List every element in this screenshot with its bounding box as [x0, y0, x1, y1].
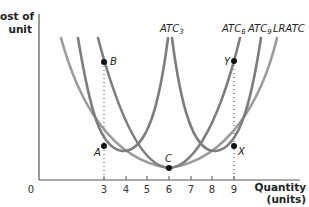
x-tick-label-9: 9: [231, 184, 237, 195]
y-axis-title-line2: unit: [8, 23, 32, 35]
x-tick-label-3: 3: [101, 184, 107, 195]
atc9-curve: [172, 38, 261, 151]
point-y-marker: [231, 58, 237, 64]
point-x-marker: [231, 143, 237, 149]
x-tick-label-4: 4: [123, 184, 129, 195]
x-axis-title-line2: (units): [267, 193, 306, 205]
point-a-label: A: [93, 147, 101, 158]
point-b-label: B: [110, 56, 117, 67]
point-c-marker: [166, 165, 172, 171]
point-c-label: C: [165, 153, 172, 164]
point-a-marker: [101, 143, 107, 149]
atc6-label: ATC6: [221, 23, 246, 36]
y-axis-title-line1: Cost of: [0, 10, 34, 22]
x-tick-label-8: 8: [209, 184, 215, 195]
x-axis-title-line1: Quantity: [255, 181, 307, 193]
atc9-label: ATC9: [247, 23, 272, 36]
atc3-label: ATC3: [159, 23, 184, 36]
atc6-curve: [98, 38, 240, 168]
cost-curves-chart: Cost of unit Quantity (units) 0 3 4 5 6 …: [0, 0, 309, 207]
point-b-marker: [101, 59, 107, 65]
point-x-label: X: [237, 146, 246, 157]
point-y-label: Y: [224, 56, 231, 67]
atc3-curve: [78, 38, 168, 151]
lratc-label: LRATC: [273, 23, 305, 34]
x-tick-label-5: 5: [144, 184, 150, 195]
x-tick-label-6: 6: [166, 184, 172, 195]
origin-label: 0: [28, 184, 34, 195]
x-tick-label-7: 7: [188, 184, 194, 195]
